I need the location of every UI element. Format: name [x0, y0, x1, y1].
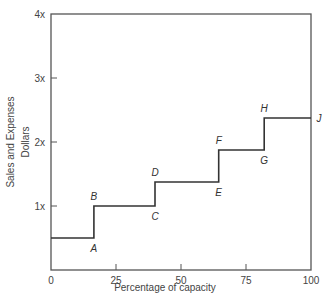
plot-frame: [51, 14, 311, 270]
point-label-g: G: [260, 155, 268, 166]
y-tick-label: 2x: [34, 137, 45, 148]
x-tick-label: 75: [240, 275, 252, 286]
point-label-h: H: [261, 103, 269, 114]
point-label-j: J: [316, 113, 323, 124]
point-label-a: A: [90, 243, 98, 254]
y-tick-label: 1x: [34, 201, 45, 212]
x-axis-title: Percentage of capacity: [114, 282, 216, 293]
y-tick-label: 3x: [34, 73, 45, 84]
y-axis-title-line2: Dollars: [20, 126, 31, 157]
step-line: [51, 118, 311, 238]
point-labels: ABCDEFGHJ: [90, 103, 323, 254]
point-label-b: B: [91, 191, 98, 202]
step-chart: 1x2x3x4x 0255075100 ABCDEFGHJ Percentage…: [0, 0, 327, 300]
point-label-d: D: [151, 167, 158, 178]
x-tick-label: 100: [303, 275, 320, 286]
x-tick-label: 0: [48, 275, 54, 286]
y-tick-label: 4x: [34, 9, 45, 20]
y-axis-ticks: 1x2x3x4x: [34, 9, 57, 212]
point-label-e: E: [215, 187, 222, 198]
point-label-c: C: [151, 211, 159, 222]
step-series: [51, 118, 311, 238]
plot-border: [51, 14, 311, 270]
point-label-f: F: [216, 135, 223, 146]
y-axis-title-line1: Sales and Expenses: [5, 96, 16, 187]
